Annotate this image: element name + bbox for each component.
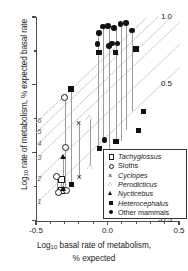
legend-item-heterocephalus[interactable]: Heterocephalus: [107, 199, 185, 208]
x-tick-minor: [164, 221, 165, 224]
data-point-heterocephalus[interactable]: [136, 128, 141, 133]
data-point-heterocephalus[interactable]: [96, 50, 101, 55]
x-axis-title-line2: % expected: [0, 253, 188, 264]
y-tick-label: 0.5: [161, 79, 172, 88]
data-point-cyclopes[interactable]: ×: [77, 174, 82, 180]
data-point-other-mammals[interactable]: [111, 25, 117, 31]
legend-label: Other mammals: [118, 208, 169, 217]
data-point-heterocephalus[interactable]: [133, 46, 138, 51]
data-point-heterocephalus[interactable]: [69, 182, 74, 187]
legend-symbol-filled-square-icon: [107, 199, 116, 208]
data-point-perodicticus[interactable]: [87, 164, 93, 169]
legend-item-other-mammals[interactable]: Other mammals: [107, 208, 185, 217]
x-axis-title-log: Log: [37, 241, 51, 250]
legend-item-sloths[interactable]: Sloths: [107, 161, 185, 170]
data-point-other-mammals[interactable]: [123, 20, 129, 26]
data-point-heterocephalus[interactable]: [68, 86, 73, 91]
y-tick: [32, 152, 36, 153]
legend[interactable]: TachyglossusSloths×CyclopesPerodicticusN…: [103, 149, 187, 219]
connector-line: [71, 89, 72, 185]
filled-square-icon: [109, 201, 113, 205]
y-tick-minor: [34, 118, 37, 119]
y-axis-title: Log10 rate of metabolism, % expected bas…: [20, 5, 29, 205]
x-tick-minor: [121, 221, 122, 224]
connector-line: [90, 119, 91, 168]
connector-line: [79, 124, 80, 178]
y-tick-minor: [34, 186, 37, 187]
y-axis-title-subscript: 10: [23, 170, 29, 176]
x-axis-title-line1: Log10 basal rate of metabolism,: [0, 240, 188, 253]
legend-label: Perodicticus: [118, 180, 157, 189]
x-tick: [107, 221, 108, 225]
cross-icon: ×: [108, 171, 112, 180]
data-point-heterocephalus[interactable]: [97, 146, 102, 151]
reference-line-label-1: 1: [38, 198, 42, 205]
legend-symbol-open-square-icon: [107, 152, 116, 161]
legend-symbol-open-triangle-icon: [107, 180, 116, 189]
x-tick-minor: [136, 221, 137, 224]
open-square-icon: [109, 154, 115, 160]
legend-label: Heterocephalus: [118, 199, 168, 208]
reference-line-label-6: 6: [38, 117, 42, 124]
y-tick-label: 1.0: [161, 12, 172, 21]
reference-line-label-4: 4: [38, 140, 42, 147]
legend-label: Cyclopes: [118, 171, 148, 180]
x-tick-minor: [50, 221, 51, 224]
x-tick-minor: [78, 221, 79, 224]
legend-symbol-filled-circle-icon: [107, 208, 116, 217]
data-point-nycticebus[interactable]: [60, 186, 66, 191]
y-tick-minor: [34, 50, 37, 51]
legend-symbol-open-circle-icon: [107, 161, 116, 170]
data-point-other-mammals[interactable]: [109, 41, 115, 47]
legend-label: Sloths: [118, 161, 138, 170]
x-axis-title-rest: basal rate of metabolism,: [57, 241, 151, 250]
y-axis-title-rest: rate of metabolism, % expected basal rat…: [20, 19, 29, 170]
y-axis-title-log: Log: [20, 177, 29, 190]
legend-label: Nycticebus: [118, 189, 153, 198]
connector-line: [126, 23, 127, 130]
y-tick: [32, 84, 36, 85]
reference-line-label-3: 3: [38, 154, 42, 161]
legend-label: Tachyglossus: [118, 152, 161, 161]
x-tick-minor: [64, 221, 65, 224]
data-point-heterocephalus[interactable]: [113, 139, 118, 144]
x-tick-label: -0.5: [22, 226, 50, 235]
x-tick-minor: [93, 221, 94, 224]
reference-line-label-5: 5: [38, 128, 42, 135]
data-point-other-mammals[interactable]: [95, 41, 101, 47]
legend-item-tachyglossus[interactable]: Tachyglossus: [107, 152, 185, 161]
x-tick: [35, 221, 36, 225]
x-tick-label: 0.0: [94, 226, 122, 235]
filled-triangle-icon: [108, 191, 112, 195]
data-point-nycticebus[interactable]: [60, 154, 66, 159]
data-point-perodicticus[interactable]: [86, 115, 92, 120]
data-point-other-mammals[interactable]: [102, 137, 108, 143]
legend-item-perodicticus[interactable]: Perodicticus: [107, 180, 185, 189]
legend-item-nycticebus[interactable]: Nycticebus: [107, 189, 185, 198]
x-tick-label: 0.5: [165, 226, 188, 235]
legend-symbol-cross-icon: ×: [107, 171, 116, 180]
connector-line: [132, 31, 133, 112]
filled-circle-icon: [109, 210, 113, 214]
data-point-other-mammals[interactable]: [96, 30, 102, 36]
reference-line-label-2: 2: [38, 175, 42, 182]
figure-root: Log10 rate of metabolism, % expected bas…: [0, 0, 188, 271]
open-circle-icon: [109, 164, 115, 170]
data-point-other-mammals[interactable]: [115, 41, 121, 47]
data-point-heterocephalus[interactable]: [113, 50, 118, 55]
x-tick: [178, 221, 179, 225]
connector-line: [121, 24, 122, 141]
data-point-sloths[interactable]: [61, 94, 68, 101]
open-triangle-icon: [108, 182, 112, 186]
x-axis-title: Log10 basal rate of metabolism, % expect…: [0, 240, 188, 264]
data-point-heterocephalus[interactable]: [141, 109, 146, 114]
legend-item-cyclopes[interactable]: ×Cyclopes: [107, 171, 185, 180]
y-tick: [32, 16, 36, 17]
connector-line: [103, 27, 104, 140]
data-point-cyclopes[interactable]: ×: [76, 120, 81, 126]
x-tick-minor: [150, 221, 151, 224]
legend-symbol-filled-triangle-icon: [107, 189, 116, 198]
data-point-other-mammals[interactable]: [129, 28, 135, 34]
